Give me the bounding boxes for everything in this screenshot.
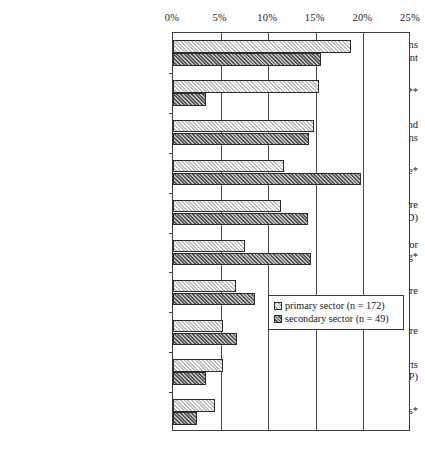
bar-primary-3 xyxy=(173,160,284,172)
bar-secondary-4 xyxy=(173,213,308,225)
bar-primary-6 xyxy=(173,280,236,292)
bar-secondary-5 xyxy=(173,253,311,265)
legend-label: secondary sector (n = 49) xyxy=(285,312,389,325)
x-tick-20: 20% xyxy=(352,12,372,23)
bar-secondary-7 xyxy=(173,333,237,345)
legend-swatch-secondary-icon xyxy=(274,315,282,323)
bar-secondary-9 xyxy=(173,412,197,424)
bar-primary-8 xyxy=(173,359,223,371)
category-tick-9 xyxy=(169,392,173,393)
x-tick-10: 10% xyxy=(257,12,277,23)
bar-primary-0 xyxy=(173,40,351,52)
bar-primary-4 xyxy=(173,200,281,212)
category-tick-7 xyxy=(169,312,173,313)
bar-secondary-6 xyxy=(173,293,255,305)
bar-primary-9 xyxy=(173,399,215,411)
x-tick-0: 0% xyxy=(165,12,179,23)
bar-secondary-1 xyxy=(173,93,206,105)
gridline-20 xyxy=(363,33,364,430)
category-tick-4 xyxy=(169,193,173,194)
bar-primary-2 xyxy=(173,120,314,132)
category-tick-6 xyxy=(169,272,173,273)
gridline-10 xyxy=(268,33,269,430)
category-tick-1 xyxy=(169,73,173,74)
x-tick-25: 25% xyxy=(400,12,420,23)
legend-item-secondary: secondary sector (n = 49) xyxy=(274,312,398,325)
category-tick-5 xyxy=(169,233,173,234)
bar-secondary-8 xyxy=(173,372,206,384)
bar-primary-5 xyxy=(173,240,245,252)
bar-secondary-2 xyxy=(173,133,309,145)
category-tick-8 xyxy=(169,352,173,353)
bar-primary-7 xyxy=(173,320,223,332)
category-tick-3 xyxy=(169,153,173,154)
legend-swatch-primary-icon xyxy=(274,302,282,310)
legend-item-primary: primary sector (n = 172) xyxy=(274,299,398,312)
x-tick-15: 15% xyxy=(305,12,325,23)
gridline-15 xyxy=(316,33,317,430)
bar-primary-1 xyxy=(173,80,319,92)
category-tick-2 xyxy=(169,113,173,114)
chart-legend: primary sector (n = 172)secondary sector… xyxy=(268,295,404,330)
plot-area xyxy=(172,32,410,431)
bar-secondary-0 xyxy=(173,53,321,65)
legend-label: primary sector (n = 172) xyxy=(285,299,385,312)
x-tick-5: 5% xyxy=(212,12,226,23)
bar-chart: 0%5%10%15%20%25% software applications f… xyxy=(0,0,425,454)
bar-secondary-3 xyxy=(173,173,361,185)
